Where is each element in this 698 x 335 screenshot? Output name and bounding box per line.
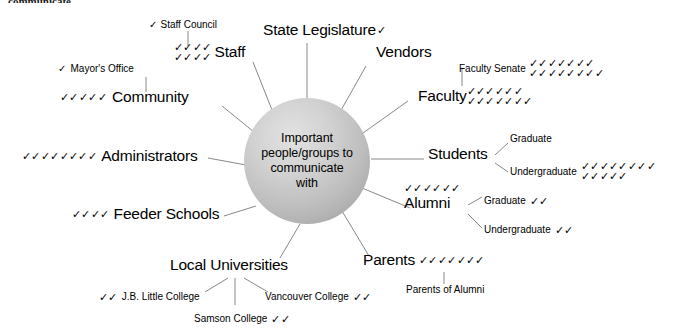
checkmark-row: ✓✓✓✓✓✓ [404,183,460,193]
faculty-senate-label: Faculty Senate [459,63,526,74]
jb-little-college-label: J.B. Little College [122,291,200,302]
node-faculty-senate: Faculty Senate ✓✓✓✓✓✓✓✓✓✓✓✓✓✓✓ [459,58,604,78]
node-local-universities: Local Universities [170,256,288,274]
center-line-4: with [296,176,318,190]
parents-of-alumni-label: Parents of Alumni [406,284,484,295]
spoke-feeder-schools [224,206,256,216]
spoke-administrators [208,158,246,165]
faculty-label: Faculty [418,87,467,105]
checkmarks-alumni-graduate: ✓✓ [530,196,549,206]
node-parents: Parents ✓✓✓✓✓✓✓ [363,251,485,269]
node-students-graduate: Graduate [510,133,552,144]
staff-label: Staff [215,43,246,61]
parents-label: Parents [363,251,415,269]
vendors-label: Vendors [376,43,431,61]
checkmarks-vancouver-college: ✓✓ [353,292,372,302]
spoke-local-universities [280,224,300,258]
center-line-1: Important [281,131,333,145]
node-state-legislature: State Legislature ✓ [263,21,386,39]
spoke-staff [253,62,274,115]
students-undergraduate-label: Undergraduate [510,166,577,177]
node-alumni-undergraduate: Undergraduate ✓✓ [484,224,574,235]
node-samson-college: Samson College ✓✓ [194,313,290,324]
checkmarks-jb-little-college: ✓✓ [99,292,118,302]
checkmark-row: ✓✓✓✓✓✓✓✓ [22,151,97,161]
checkmark-row: ✓✓✓✓✓✓✓✓ [529,68,604,78]
checkmark-row: ✓✓✓✓✓ [60,92,107,102]
node-community: ✓✓✓✓✓ Community [60,88,189,106]
checkmark-row: ✓✓✓✓ [72,209,110,219]
staff-council-label: Staff Council [161,19,218,30]
checkmarks-alumni: ✓✓✓✓✓✓ [404,183,460,193]
spoke-alumni [362,188,410,208]
checkmarks-alumni-undergraduate: ✓✓ [555,225,574,235]
checkmark-row: ✓✓✓✓✓ [581,171,656,181]
checkmarks-staff-council: ✓ [149,20,158,30]
node-faculty: Faculty ✓✓✓✓✓✓✓✓✓✓✓✓✓ [418,86,532,106]
checkmarks-faculty-senate: ✓✓✓✓✓✓✓✓✓✓✓✓✓✓✓ [529,58,604,78]
alumni-label: Alumni [404,194,460,212]
connector-alumni-undergraduate [468,214,482,228]
node-vancouver-college: Vancouver College ✓✓ [265,291,372,302]
node-vendors: Vendors [376,43,431,61]
local-universities-label: Local Universities [170,256,288,274]
center-node-label: Important people/groups to communicate w… [261,131,353,191]
connector-alumni-graduate [468,197,482,205]
vancouver-college-label: Vancouver College [265,291,349,302]
center-line-2: people/groups to [261,146,353,160]
alumni-graduate-label: Graduate [484,195,526,206]
connector-jb-little [205,278,228,292]
alumni-undergraduate-label: Undergraduate [484,224,551,235]
checkmarks-administrators: ✓✓✓✓✓✓✓✓ [22,151,97,161]
node-mayors-office: ✓ Mayor's Office [58,63,134,74]
checkmarks-state-legislature: ✓ [377,25,386,35]
mayors-office-label: Mayor's Office [71,63,134,74]
center-node: Important people/groups to communicate w… [244,98,370,224]
checkmarks-faculty: ✓✓✓✓✓✓✓✓✓✓✓✓✓ [467,86,533,106]
checkmark-row: ✓✓✓✓ [174,52,212,62]
students-graduate-label: Graduate [510,133,552,144]
samson-college-label: Samson College [194,313,267,324]
feeder-schools-label: Feeder Schools [114,205,220,223]
checkmarks-mayors-office: ✓ [58,64,67,74]
community-label: Community [112,88,189,106]
checkmarks-students-undergraduate: ✓✓✓✓✓✓✓✓✓✓✓✓✓ [581,161,656,181]
spoke-parents [342,211,369,256]
checkmarks-parents: ✓✓✓✓✓✓✓ [419,255,485,265]
node-students: Students [428,145,488,163]
center-line-3: communicate [270,161,343,175]
connector-vancouver [244,278,268,292]
checkmarks-community: ✓✓✓✓✓ [60,92,107,102]
node-alumni: ✓✓✓✓✓✓ Alumni [404,183,460,212]
spoke-community [222,106,254,132]
node-alumni-graduate: Graduate ✓✓ [484,195,549,206]
node-administrators: ✓✓✓✓✓✓✓✓ Administrators [22,147,197,165]
students-label: Students [428,145,488,163]
node-students-undergraduate: Undergraduate ✓✓✓✓✓✓✓✓✓✓✓✓✓ [510,161,656,181]
node-parents-of-alumni: Parents of Alumni [406,284,484,295]
checkmark-row: ✓✓✓✓✓✓✓ [467,96,533,106]
checkmarks-feeder-schools: ✓✓✓✓ [72,209,110,219]
checkmark-row: ✓✓✓✓✓✓✓ [419,255,485,265]
node-feeder-schools: ✓✓✓✓ Feeder Schools [72,205,219,223]
spoke-faculty [363,101,408,133]
node-staff-council: ✓ Staff Council [149,19,217,30]
connector-students-graduate [495,143,508,155]
connector-students-undergraduate [495,163,508,172]
checkmarks-samson-college: ✓✓ [271,314,290,324]
administrators-label: Administrators [101,147,197,165]
node-staff: ✓✓✓✓✓✓✓✓ Staff [174,42,245,62]
state-legislature-label: State Legislature [263,21,376,39]
spoke-vendors [340,66,366,112]
checkmarks-staff: ✓✓✓✓✓✓✓✓ [174,42,212,62]
mind-map-diagram: communicate. Important people/groups to [0,0,698,335]
node-jb-little-college: ✓✓ J.B. Little College [99,291,200,302]
